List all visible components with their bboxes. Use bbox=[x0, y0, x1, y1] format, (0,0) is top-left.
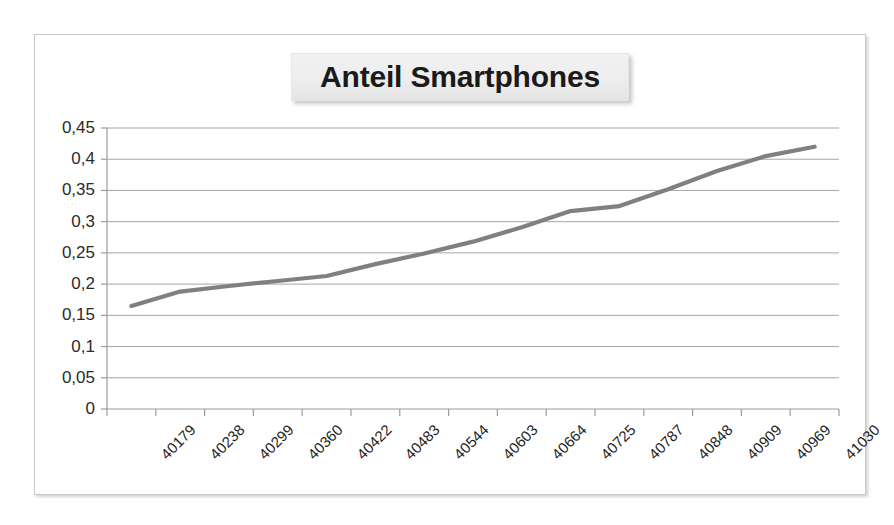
y-axis-tick-label: 0,1 bbox=[35, 337, 95, 357]
y-axis-tick-label: 0,35 bbox=[35, 180, 95, 200]
chart-canvas bbox=[35, 35, 867, 496]
x-axis-tick-marks bbox=[107, 409, 839, 416]
y-axis-tick-label: 0,45 bbox=[35, 118, 95, 138]
y-axis-tick-label: 0,4 bbox=[35, 149, 95, 169]
chart-title: Anteil Smartphones bbox=[291, 53, 629, 101]
y-axis-tick-label: 0 bbox=[35, 399, 95, 419]
y-axis-tick-marks bbox=[101, 128, 107, 409]
y-axis-tick-label: 0,25 bbox=[35, 243, 95, 263]
y-axis-tick-label: 0,2 bbox=[35, 274, 95, 294]
chart-plot-area: 0,450,40,350,30,250,20,150,10,050 401794… bbox=[35, 35, 867, 496]
y-axis-tick-label: 0,15 bbox=[35, 305, 95, 325]
y-axis-tick-label: 0,3 bbox=[35, 212, 95, 232]
data-series-line bbox=[131, 147, 814, 306]
y-axis-tick-label: 0,05 bbox=[35, 368, 95, 388]
chart-frame: 0,450,40,350,30,250,20,150,10,050 401794… bbox=[34, 34, 866, 495]
chart-title-label: Anteil Smartphones bbox=[320, 60, 600, 94]
